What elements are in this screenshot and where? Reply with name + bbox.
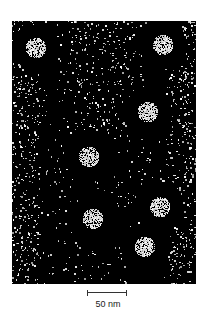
scale-bar	[87, 290, 127, 296]
micrograph-image	[12, 21, 196, 284]
scale-bar-label: 50 nm	[80, 299, 136, 309]
